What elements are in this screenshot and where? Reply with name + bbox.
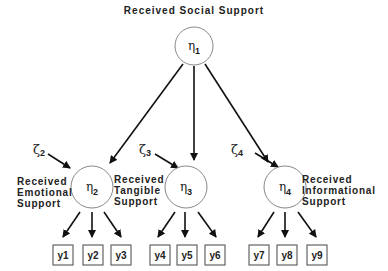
indicator-y9-label: y9 <box>307 250 327 261</box>
indicator-y4-label: y4 <box>150 250 170 261</box>
factor-label-informational: Received Informational Support <box>302 174 376 207</box>
indicator-y1-label: y1 <box>53 250 73 261</box>
zeta3-label: ζ3 <box>139 142 151 158</box>
indicator-y8-label: y8 <box>277 250 297 261</box>
indicator-y5-label: y5 <box>177 250 197 261</box>
path-zeta3 <box>155 154 178 168</box>
indicator-y3-label: y3 <box>111 250 131 261</box>
eta1-label: η1 <box>180 36 208 56</box>
path-zeta4 <box>255 153 278 167</box>
indicator-y7-label: y7 <box>249 250 269 261</box>
eta3-label: η3 <box>172 177 200 197</box>
factor-label-emotional: Received Emotional Support <box>17 176 73 209</box>
factor-label-tangible: Received Tangible Support <box>114 174 164 207</box>
eta2-label: η2 <box>78 177 106 197</box>
zeta2-label: ζ2 <box>33 142 45 158</box>
indicator-y2-label: y2 <box>83 250 103 261</box>
indicator-y6-label: y6 <box>205 250 225 261</box>
path-zeta2 <box>48 154 70 168</box>
eta4-label: η4 <box>271 177 299 197</box>
zeta4-label: ζ4 <box>231 142 243 158</box>
